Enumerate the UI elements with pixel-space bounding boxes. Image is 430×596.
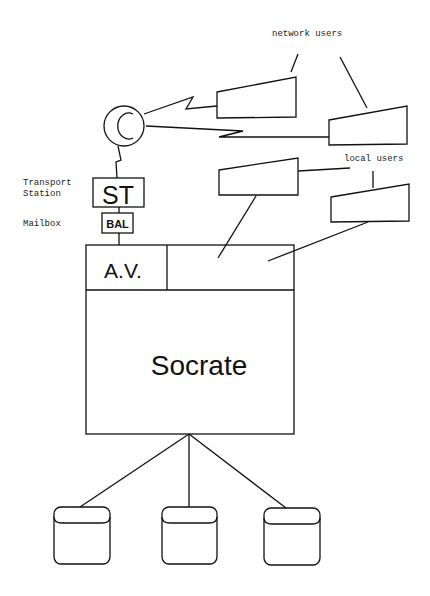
storage-disk-2: [162, 507, 217, 564]
socrate-text: Socrate: [151, 350, 248, 381]
network-users-pointer-2: [340, 57, 367, 108]
network-users-pointer-1: [291, 54, 298, 72]
concentrator-node: [104, 106, 144, 146]
local-link-1: [218, 196, 256, 258]
network-link-2: [146, 126, 329, 137]
local-link-2: [268, 222, 368, 261]
socrate-architecture-diagram: network users local users Transport Stat…: [0, 0, 430, 596]
local-users-pointer-1: [298, 168, 350, 171]
storage-disk-3: [264, 508, 320, 565]
transport-label-line1: Transport: [23, 178, 72, 188]
network-link-1: [144, 97, 217, 114]
st-text: ST: [102, 181, 134, 209]
mailbox-label: Mailbox: [23, 219, 61, 229]
transport-label-line2: Station: [23, 189, 61, 199]
av-text: A.V.: [104, 259, 142, 282]
storage-disk-1: [54, 507, 110, 564]
local-users-label: local users: [344, 154, 403, 164]
local-terminal-1: [219, 158, 298, 195]
bal-text: BAL: [106, 218, 129, 230]
local-terminal-2: [331, 184, 409, 222]
station-link: [116, 146, 121, 178]
network-terminal-1: [217, 77, 296, 118]
network-terminal-2: [329, 106, 407, 145]
network-users-label: network users: [272, 29, 342, 39]
concentrator-c-glyph: [118, 113, 133, 139]
